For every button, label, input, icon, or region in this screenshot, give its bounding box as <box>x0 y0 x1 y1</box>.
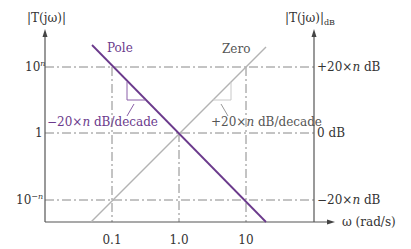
zero-slope-label: +20×n dB/decade <box>211 115 322 129</box>
x-axis-arrow-icon <box>327 220 335 225</box>
left-axis-arrow-icon <box>43 29 48 37</box>
left-axis-title: |T(jω)| <box>27 11 66 25</box>
right-axis-arrow-icon <box>312 29 317 37</box>
pole-label: Pole <box>107 41 133 55</box>
y-left-tick-top: 10n <box>25 59 45 74</box>
y-left-tick-bot: 10−n <box>16 192 43 207</box>
right-axis-title: |T(jω)|dB <box>285 11 335 27</box>
x-tick-10: 10 <box>238 233 253 247</box>
zero-label: Zero <box>222 42 250 56</box>
bode-asymptote-diagram: |T(jω)| |T(jω)|dB 10n 1 10−n +20×n dB 0 … <box>0 0 411 249</box>
x-tick-1.0: 1.0 <box>169 233 188 247</box>
pole-slope-label: −20×n dB/decade <box>47 115 158 129</box>
grid <box>45 67 314 222</box>
y-left-tick-mid: 1 <box>35 126 43 140</box>
x-tick-0.1: 0.1 <box>102 233 121 247</box>
x-axis-title: ω (rad/s) <box>342 215 396 229</box>
y-right-tick-top: +20×n dB <box>317 60 381 74</box>
y-right-tick-bot: −20×n dB <box>317 193 381 207</box>
